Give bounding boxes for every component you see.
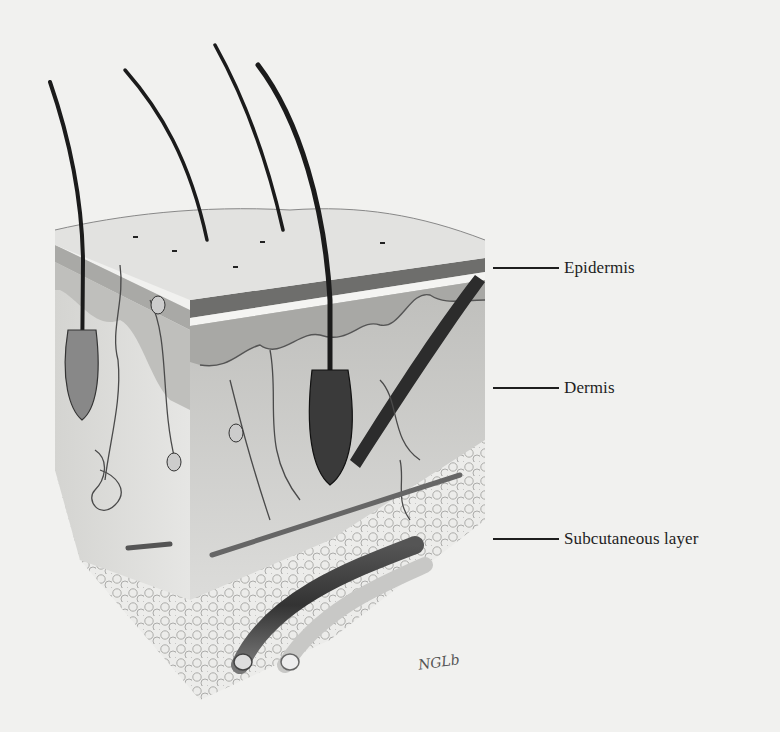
leader-line bbox=[493, 538, 559, 540]
label-text: Dermis bbox=[564, 378, 615, 398]
label-text: Epidermis bbox=[564, 258, 635, 278]
left-face bbox=[55, 245, 190, 600]
leader-line bbox=[493, 267, 559, 269]
label-epidermis: Epidermis bbox=[493, 258, 635, 278]
skin-cross-section-illustration bbox=[0, 0, 780, 732]
label-subcutaneous-layer: Subcutaneous layer bbox=[493, 529, 698, 549]
label-text: Subcutaneous layer bbox=[564, 529, 698, 549]
leader-line bbox=[493, 387, 559, 389]
label-dermis: Dermis bbox=[493, 378, 615, 398]
